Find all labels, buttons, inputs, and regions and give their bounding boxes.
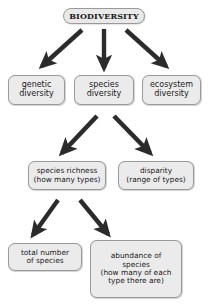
node-total-number-of-species-line-2: of species xyxy=(26,257,63,265)
diagram-canvas: BIODIVERSITY genetic diversity species d… xyxy=(0,0,208,304)
node-abundance-of-species-line-4: type there are) xyxy=(108,277,164,285)
node-ecosystem-diversity-line-2: diversity xyxy=(154,90,189,99)
node-ecosystem-diversity[interactable]: ecosystem diversity xyxy=(142,75,201,105)
edge-species-to-disparity xyxy=(114,116,150,153)
node-disparity-line-2: (range of types) xyxy=(126,176,185,184)
edge-root-to-ecosystem xyxy=(126,30,166,66)
edge-root-to-genetic xyxy=(42,30,82,66)
node-species-diversity-line-2: diversity xyxy=(87,90,122,99)
edge-richness-to-abundance xyxy=(80,200,108,234)
node-species-diversity[interactable]: species diversity xyxy=(74,75,134,105)
node-disparity[interactable]: disparity (range of types) xyxy=(118,161,194,190)
node-species-richness[interactable]: species richness (how many types) xyxy=(28,161,106,190)
node-biodiversity[interactable]: BIODIVERSITY xyxy=(63,8,145,24)
node-biodiversity-line-1: BIODIVERSITY xyxy=(69,12,139,21)
node-genetic-diversity-line-2: diversity xyxy=(19,90,54,99)
node-genetic-diversity[interactable]: genetic diversity xyxy=(8,75,65,105)
node-total-number-of-species[interactable]: total number of species xyxy=(8,243,82,271)
node-abundance-of-species[interactable]: abundance of species (how many of each t… xyxy=(90,240,182,298)
edge-species-to-richness xyxy=(62,116,97,153)
edge-richness-to-total xyxy=(33,200,58,235)
node-species-richness-line-2: (how many types) xyxy=(34,176,101,184)
